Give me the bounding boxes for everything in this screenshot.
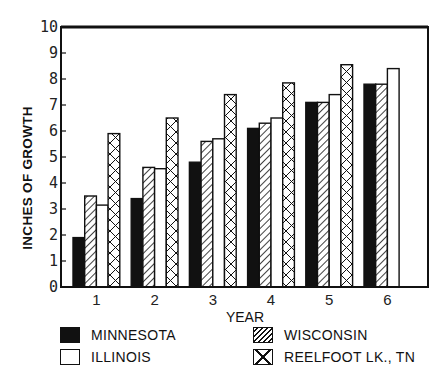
legend-item-minnesota: MINNESOTA	[60, 326, 176, 344]
x-axis-label: YEAR	[226, 309, 264, 325]
bar-group-year-4	[248, 83, 295, 287]
x-tick-label: 1	[92, 291, 100, 308]
legend-swatch-crosshatch	[253, 349, 273, 365]
y-tick-label: 3	[49, 200, 58, 218]
bar-minnesota	[248, 128, 260, 287]
bar-wisconsin	[318, 102, 330, 287]
bar-group-year-2	[131, 118, 178, 287]
x-axis: 123456	[61, 287, 428, 308]
bar-minnesota	[73, 238, 85, 287]
bar-wisconsin	[259, 123, 271, 287]
x-tick-label: 2	[150, 291, 158, 308]
bar-group-year-3	[189, 95, 236, 287]
bar-minnesota	[306, 102, 318, 287]
y-tick-label: 10	[40, 18, 58, 36]
y-tick-label: 2	[49, 226, 58, 244]
x-tick-label: 5	[325, 291, 333, 308]
legend-swatch-white	[60, 349, 80, 365]
legend-label: REELFOOT LK., TN	[284, 349, 415, 365]
legend-item-wisconsin: WISCONSIN	[253, 326, 368, 344]
y-tick-label: 7	[49, 96, 58, 114]
y-tick-label: 1	[49, 252, 58, 270]
bar-reelfoot-lk-tn	[341, 65, 353, 287]
y-tick-label: 5	[49, 148, 58, 166]
y-tick-label: 6	[49, 122, 58, 140]
legend-swatch-diagonal	[253, 327, 273, 343]
bar-illinois	[329, 95, 341, 287]
bar-group-year-1	[73, 134, 120, 287]
bar-reelfoot-lk-tn	[283, 83, 295, 287]
bars	[73, 65, 399, 287]
bar-reelfoot-lk-tn	[108, 134, 120, 287]
bar-wisconsin	[143, 167, 155, 287]
bar-minnesota	[189, 162, 201, 287]
legend-swatch-solid	[60, 327, 80, 343]
bar-reelfoot-lk-tn	[166, 118, 178, 287]
bar-wisconsin	[85, 196, 97, 287]
legend-label: ILLINOIS	[91, 349, 151, 365]
legend-item-reelfoot: REELFOOT LK., TN	[253, 348, 415, 366]
bar-wisconsin	[376, 84, 388, 287]
legend-label: MINNESOTA	[91, 327, 176, 343]
bar-minnesota	[364, 84, 376, 287]
bar-illinois	[155, 169, 167, 287]
legend-item-illinois: ILLINOIS	[60, 348, 151, 366]
bar-illinois	[213, 139, 225, 287]
bar-wisconsin	[201, 141, 213, 287]
x-tick-label: 6	[383, 291, 391, 308]
y-tick-label: 8	[49, 70, 58, 88]
bar-minnesota	[131, 199, 143, 287]
bar-illinois	[387, 69, 399, 287]
bar-illinois	[96, 205, 108, 287]
y-tick-label: 9	[49, 44, 58, 62]
bar-reelfoot-lk-tn	[225, 95, 237, 287]
y-axis-label: INCHES OF GROWTH	[20, 106, 35, 250]
y-axis: 012345678910	[40, 18, 66, 296]
bar-group-year-6	[364, 69, 399, 287]
y-tick-label: 0	[49, 278, 58, 296]
x-tick-label: 3	[209, 291, 217, 308]
y-tick-label: 4	[49, 174, 58, 192]
bar-illinois	[271, 118, 283, 287]
x-tick-label: 4	[267, 291, 275, 308]
legend: MINNESOTA WISCONSIN ILLINOIS REELFOOT LK…	[60, 326, 440, 376]
legend-label: WISCONSIN	[284, 327, 368, 343]
bar-group-year-5	[306, 65, 353, 287]
